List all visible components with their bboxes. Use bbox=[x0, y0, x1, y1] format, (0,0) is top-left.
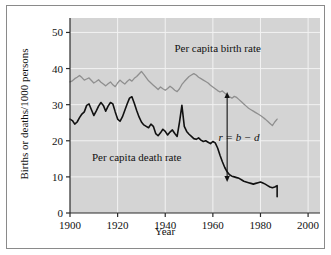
y-tick-label: 20 bbox=[52, 135, 64, 147]
figure-root: 01020304050190019201940196019802000Per c… bbox=[0, 0, 331, 255]
death-rate-label: Per capita death rate bbox=[92, 151, 182, 163]
x-tick-label: 1960 bbox=[202, 219, 225, 231]
x-axis-title: Year bbox=[130, 225, 200, 237]
y-tick-label: 40 bbox=[52, 63, 64, 75]
x-tick-label: 1900 bbox=[59, 219, 82, 231]
chart-canvas: 01020304050190019201940196019802000Per c… bbox=[0, 0, 331, 255]
birth-rate-label: Per capita birth rate bbox=[174, 42, 261, 54]
y-tick-label: 0 bbox=[58, 207, 64, 219]
x-tick-label: 1920 bbox=[107, 219, 130, 231]
x-tick-label: 2000 bbox=[297, 219, 320, 231]
y-tick-label: 10 bbox=[52, 171, 64, 183]
y-axis-title: Births or deaths/1000 persons bbox=[18, 34, 30, 194]
y-tick-label: 30 bbox=[52, 99, 64, 111]
x-tick-label: 1980 bbox=[249, 219, 272, 231]
y-tick-label: 50 bbox=[52, 26, 64, 38]
growth-rate-formula: r = b − d bbox=[218, 131, 260, 143]
